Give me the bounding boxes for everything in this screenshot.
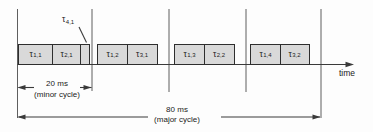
task-box-tau-1-2: τ1,2 xyxy=(97,44,128,65)
minor-cycle-caption: (minor cycle) xyxy=(25,90,89,99)
task-box-tau-1-4: τ1,4 xyxy=(250,44,281,65)
major-cycle-arrowhead-right-icon xyxy=(313,114,321,119)
task-label-subscript: 1,2 xyxy=(110,52,118,58)
callout-symbol: τ xyxy=(62,14,65,24)
major-cycle-arrowhead-left-icon xyxy=(18,114,26,119)
task-label: τ xyxy=(29,50,32,59)
task-label-subscript: 3,2 xyxy=(292,52,300,58)
major-cycle-duration: 80 ms xyxy=(155,105,199,114)
task-box-tau-1-1: τ1,1 xyxy=(18,44,53,65)
callout-label-tau-4-1: τ4,1 xyxy=(62,15,74,26)
task-label: τ xyxy=(183,50,186,59)
time-axis-label: time xyxy=(339,69,355,79)
task-label: τ xyxy=(60,50,63,59)
task-box-tau-1-3: τ1,3 xyxy=(174,44,205,65)
task-label: τ xyxy=(213,50,216,59)
task-label: τ xyxy=(106,50,109,59)
task-label-subscript: 1,3 xyxy=(187,52,195,58)
minor-cycle-duration: 20 ms xyxy=(35,79,79,88)
major-cycle-caption: (major cycle) xyxy=(143,115,211,124)
task-label-subscript: 3,1 xyxy=(140,52,148,58)
callout-subscript: 4,1 xyxy=(66,19,74,25)
task-box-tau-3-2: τ3,2 xyxy=(280,44,310,65)
task-box-tau-4-1-sliver xyxy=(80,44,90,65)
task-label: τ xyxy=(136,50,139,59)
time-axis-arrowhead-icon xyxy=(346,62,355,68)
task-box-tau-2-1: τ2,1 xyxy=(52,44,82,65)
task-box-tau-3-1: τ3,1 xyxy=(127,44,158,65)
task-label: τ xyxy=(288,50,291,59)
callout-leader-line xyxy=(79,27,87,43)
task-label-subscript: 2,2 xyxy=(217,52,225,58)
task-label-subscript: 1,1 xyxy=(33,52,41,58)
task-label-subscript: 2,1 xyxy=(64,52,72,58)
task-label-subscript: 1,4 xyxy=(263,52,271,58)
schedule-diagram: τ1,1 τ2,1 τ1,2 τ3,1 τ1,3 τ2,2 τ1,4 τ3,2 … xyxy=(0,0,373,132)
task-box-tau-2-2: τ2,2 xyxy=(204,44,235,65)
task-label: τ xyxy=(259,50,262,59)
